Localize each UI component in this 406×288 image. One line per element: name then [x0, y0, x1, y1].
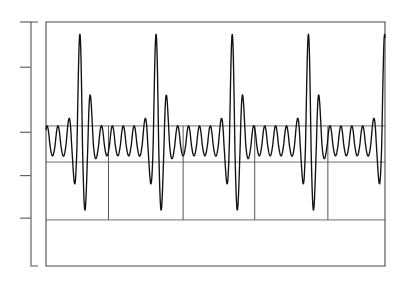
y-axis-spine-group	[20, 22, 38, 266]
y-axis-tick-group	[20, 22, 31, 218]
chart-figure	[0, 0, 406, 288]
waveform-series-line	[46, 34, 385, 210]
y-axis-spine	[31, 22, 38, 266]
waveform-plot	[0, 0, 406, 288]
plot-frame	[46, 22, 385, 266]
horizontal-gridline-group	[46, 126, 385, 220]
